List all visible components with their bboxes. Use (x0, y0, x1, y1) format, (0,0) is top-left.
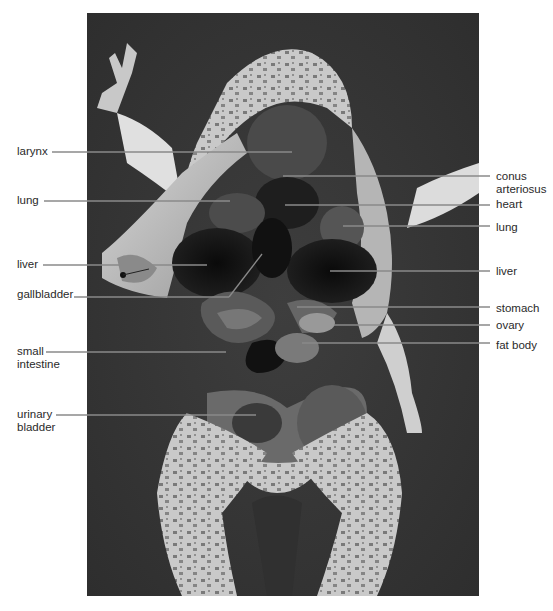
label-text-line: arteriosus (496, 183, 547, 196)
label-urinary-bladder: urinarybladder (17, 408, 55, 434)
right-liver-organ (287, 239, 377, 303)
label-text-line: liver (17, 258, 38, 271)
label-text-line: larynx (17, 145, 48, 158)
label-heart: heart (496, 198, 522, 211)
larynx-region (247, 105, 327, 181)
label-lung-right: lung (496, 221, 518, 234)
label-larynx: larynx (17, 145, 48, 158)
label-liver-right: liver (496, 265, 517, 278)
label-stomach: stomach (496, 302, 539, 315)
label-text-line: intestine (17, 358, 60, 371)
ovary-organ (299, 313, 335, 333)
label-text-line: fat body (496, 339, 537, 352)
frog-illustration (87, 13, 479, 596)
label-text-line: lung (17, 194, 39, 207)
label-text-line: bladder (17, 421, 55, 434)
label-text-line: urinary (17, 408, 55, 421)
label-text-line: small (17, 345, 60, 358)
fat-body-organ (275, 333, 319, 363)
label-text-line: lung (496, 221, 518, 234)
label-text-line: gallbladder (17, 288, 73, 301)
label-liver-left: liver (17, 258, 38, 271)
label-lung-left: lung (17, 194, 39, 207)
dissection-photo (87, 13, 479, 596)
label-text-line: heart (496, 198, 522, 211)
left-liver-organ (172, 228, 262, 298)
label-small-intestine: smallintestine (17, 345, 60, 371)
label-fat-body: fat body (496, 339, 537, 352)
label-text-line: ovary (496, 319, 524, 332)
label-conus-arteriosus: conusarteriosus (496, 170, 547, 196)
left-lung-organ (209, 193, 265, 233)
label-text-line: liver (496, 265, 517, 278)
label-text-line: stomach (496, 302, 539, 315)
label-gallbladder: gallbladder (17, 288, 73, 301)
label-ovary: ovary (496, 319, 524, 332)
label-text-line: conus (496, 170, 547, 183)
